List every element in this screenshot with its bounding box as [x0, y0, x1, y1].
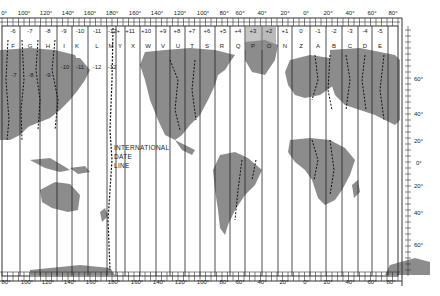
zone-offset: +4	[235, 28, 242, 35]
zone-offset: +7	[189, 28, 196, 35]
bottom-lon-label: 40°	[257, 279, 266, 286]
zone-offset: -12+	[108, 28, 120, 35]
zone-offset: -2	[331, 28, 336, 35]
bottom-lon-label: 160°	[86, 279, 98, 286]
bottom-lon-label: 120°	[175, 279, 187, 286]
inner-zone-label: -12	[93, 64, 102, 71]
zone-letter: E	[378, 43, 382, 50]
top-lon-label: 40°	[345, 10, 354, 17]
zone-offset: -7	[27, 28, 32, 35]
top-lon-label: 0°	[303, 10, 309, 17]
lat-label: 60°	[414, 76, 423, 83]
zone-offset: -5	[377, 28, 382, 35]
zone-offset: +3	[250, 28, 257, 35]
zone-offset: -6	[10, 28, 15, 35]
inner-zone-label: -9	[45, 72, 50, 79]
bottom-lon-label: 100°	[21, 279, 33, 286]
zone-letter: N	[283, 43, 287, 50]
zone-letter: H	[46, 43, 50, 50]
zone-offset: -9	[61, 28, 66, 35]
bottom-lon-label: 0°	[303, 279, 309, 286]
zone-offset: -10	[76, 28, 85, 35]
zone-letter: X	[131, 43, 135, 50]
lat-label: 0°	[416, 160, 422, 167]
lat-label: 20°	[414, 183, 423, 190]
zone-letter: I	[63, 43, 65, 50]
bottom-lon-label: 120°	[42, 279, 54, 286]
inner-zone-label: -12	[108, 64, 117, 71]
top-lon-label: 140°	[62, 10, 74, 17]
top-lon-label: 60°	[235, 10, 244, 17]
bottom-lon-label: 160°	[131, 279, 143, 286]
bottom-lon-label: 140°	[153, 279, 165, 286]
zone-letter: T	[190, 43, 194, 50]
top-lon-label: 160°	[129, 10, 141, 17]
zone-offset: -4	[362, 28, 367, 35]
zone-letter: P	[251, 43, 255, 50]
top-lon-label: 60°	[367, 10, 376, 17]
lat-label: 20°	[414, 138, 423, 145]
zone-offset: -8	[45, 28, 50, 35]
bottom-lon-label: 80°	[386, 279, 395, 286]
zone-offset: -3	[347, 28, 352, 35]
zone-letter: L	[95, 43, 98, 50]
top-lon-label: 180°	[106, 10, 118, 17]
zone-offset: +2	[266, 28, 273, 35]
zone-letter: R	[220, 43, 224, 50]
date-line-label: INTERNATIONAL DATE LINE	[114, 143, 169, 170]
zone-offset: -1	[315, 28, 320, 35]
zone-letter: Z	[299, 43, 303, 50]
zone-offset: +5	[220, 28, 227, 35]
zone-offset: +11	[125, 28, 135, 35]
top-lon-label: 20°	[280, 10, 289, 17]
zone-letter: F	[11, 43, 15, 50]
bottom-lon-label: 80°	[219, 279, 228, 286]
top-lon-label: 80°	[219, 10, 228, 17]
zone-letter: W	[145, 43, 151, 50]
zone-letter: B	[332, 43, 336, 50]
bottom-lon-label: 40°	[345, 279, 354, 286]
inner-zone-label: -10	[61, 64, 70, 71]
zone-letter: Y	[118, 43, 122, 50]
top-lon-label: 20°	[323, 10, 332, 17]
zone-letter: D	[363, 43, 367, 50]
top-lon-label: 0°	[1, 10, 7, 17]
bottom-lon-label: 100°	[197, 279, 209, 286]
bottom-lon-label: 140°	[64, 279, 76, 286]
top-lon-label: 160°	[84, 10, 96, 17]
zone-letter: A	[316, 43, 320, 50]
bottom-lon-label: 60°	[367, 279, 376, 286]
top-lon-label: 120°	[40, 10, 52, 17]
zone-offset: +10	[141, 28, 151, 35]
zone-letter: G	[28, 43, 33, 50]
bottom-lon-label: 20°	[279, 279, 288, 286]
zone-letter: Q	[236, 43, 241, 50]
bottom-lon-label: 180°	[108, 279, 120, 286]
zone-offset: +8	[174, 28, 181, 35]
top-lon-label: 100°	[18, 10, 30, 17]
top-lon-label: 40°	[257, 10, 266, 17]
bottom-lon-label: 20°	[323, 279, 332, 286]
zone-letter: V	[161, 43, 165, 50]
zone-offset: +9	[160, 28, 167, 35]
zone-letter: S	[205, 43, 209, 50]
inner-zone-label: -11	[76, 64, 84, 71]
lat-label: 40°	[414, 111, 423, 118]
zone-offset: 0	[299, 28, 302, 35]
bottom-lon-label: 80°	[1, 279, 10, 286]
bottom-lon-label: 60°	[235, 279, 244, 286]
time-zone-map: 0° 100° 120° 140° 160° 180° 160° 140° 12…	[0, 0, 440, 296]
zone-letter: O	[267, 43, 272, 50]
zone-letter: U	[176, 43, 180, 50]
zone-letter: K	[75, 43, 79, 50]
zone-offset: +6	[204, 28, 211, 35]
top-lon-label: 100°	[197, 10, 209, 17]
zone-letter: M	[109, 43, 114, 50]
top-lon-label: 80°	[388, 10, 397, 17]
zone-offset: -11	[93, 28, 101, 35]
zone-offset: +1	[282, 28, 289, 35]
inner-zone-label: -8	[28, 72, 33, 79]
top-lon-label: 120°	[174, 10, 186, 17]
top-lon-label: 140°	[151, 10, 163, 17]
lat-label: 60°	[414, 242, 423, 249]
